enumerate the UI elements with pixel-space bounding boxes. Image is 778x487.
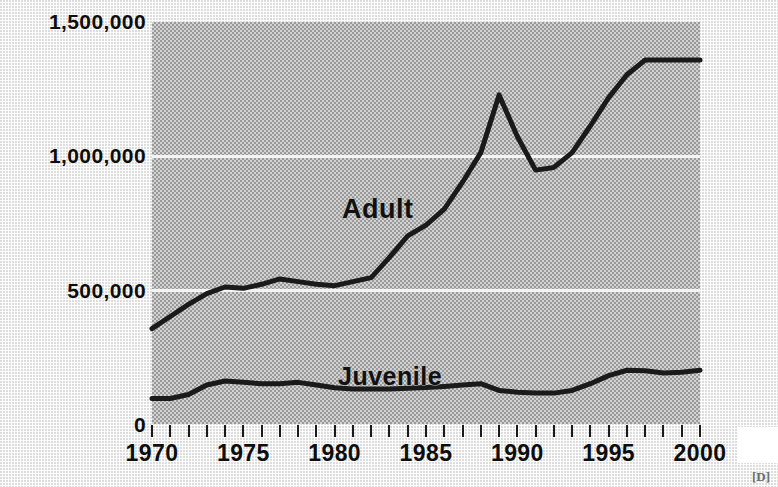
x-tick-1981 — [352, 425, 354, 437]
y-tick-label-1000000: 1,000,000 — [49, 144, 146, 168]
x-tick-1989 — [498, 425, 500, 437]
corner-mask — [738, 427, 778, 463]
y-tick-label-0: 0 — [134, 413, 146, 437]
x-tick-1991 — [535, 425, 537, 437]
x-axis-labels: 1970197519801985199019952000 — [0, 440, 778, 474]
y-tick-label-500000: 500,000 — [67, 279, 146, 303]
x-tick-label-1990: 1990 — [491, 440, 544, 467]
x-tick-label-1975: 1975 — [217, 440, 270, 467]
x-tick-label-1980: 1980 — [308, 440, 361, 467]
x-tick-1972 — [188, 425, 190, 437]
x-tick-1992 — [553, 425, 555, 437]
y-tick-label-1500000: 1,500,000 — [49, 10, 146, 34]
chart-figure: 1,500,000 1,000,000 500,000 0 Adult Juve… — [0, 0, 778, 487]
x-tick-label-1995: 1995 — [582, 440, 635, 467]
x-tick-1977 — [279, 425, 281, 437]
x-tick-1996 — [626, 425, 628, 437]
series-label-adult: Adult — [342, 194, 413, 225]
x-tick-1990 — [516, 425, 518, 437]
x-tick-1975 — [242, 425, 244, 437]
x-tick-1984 — [407, 425, 409, 437]
x-tick-1970 — [151, 425, 153, 437]
x-tick-1976 — [261, 425, 263, 437]
x-tick-1987 — [462, 425, 464, 437]
x-tick-1982 — [370, 425, 372, 437]
corner-text-fragment: [D] — [752, 469, 778, 485]
x-tick-label-2000: 2000 — [674, 440, 727, 467]
x-tick-1971 — [169, 425, 171, 437]
x-tick-1979 — [315, 425, 317, 437]
x-tick-1999 — [681, 425, 683, 437]
line-series-adult — [152, 60, 700, 329]
y-axis: 1,500,000 1,000,000 500,000 0 — [0, 0, 146, 487]
x-tick-1983 — [388, 425, 390, 437]
x-axis-ticks — [152, 425, 700, 438]
series-label-juvenile: Juvenile — [338, 362, 442, 391]
x-tick-label-1970: 1970 — [126, 440, 179, 467]
x-tick-1993 — [571, 425, 573, 437]
x-tick-1995 — [608, 425, 610, 437]
x-tick-1994 — [589, 425, 591, 437]
x-tick-1998 — [662, 425, 664, 437]
x-tick-1986 — [443, 425, 445, 437]
x-tick-1988 — [480, 425, 482, 437]
x-tick-1980 — [334, 425, 336, 437]
plot-area: Adult Juvenile — [152, 22, 700, 424]
x-tick-label-1985: 1985 — [400, 440, 453, 467]
x-tick-1985 — [425, 425, 427, 437]
x-tick-2000 — [699, 425, 701, 437]
x-tick-1974 — [224, 425, 226, 437]
x-tick-1978 — [297, 425, 299, 437]
x-tick-1997 — [644, 425, 646, 437]
x-tick-1973 — [206, 425, 208, 437]
